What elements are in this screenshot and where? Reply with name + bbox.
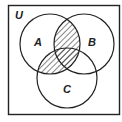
set-a-label: A (33, 36, 42, 48)
universe-label: U (15, 9, 24, 21)
venn-diagram: U A B C (0, 0, 122, 122)
set-c-label: C (63, 83, 72, 95)
set-b-label: B (88, 36, 96, 48)
